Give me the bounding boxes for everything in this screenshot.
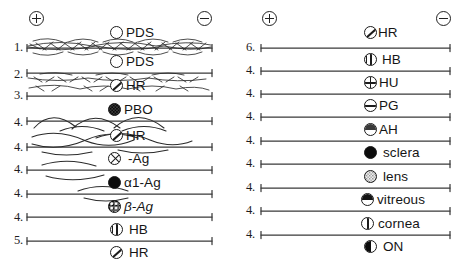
row-number: 4. — [246, 64, 255, 77]
marker-left-half-filled-circle-icon — [364, 240, 377, 253]
legend-label: PDS — [126, 26, 154, 40]
marker-solid-black-circle-icon — [108, 176, 121, 189]
row-number: 6. — [246, 41, 255, 54]
legend-entry: PDS — [110, 26, 154, 40]
legend-label: ON — [383, 240, 403, 254]
marker-vertical-bar-circle-icon — [364, 53, 377, 66]
legend-label: AH — [379, 123, 398, 137]
row-number: 4. — [246, 87, 255, 100]
marker-top-half-filled-circle-icon — [361, 193, 374, 206]
marker-crosshatched-circle-icon — [108, 152, 121, 165]
legend-label: cornea — [378, 217, 420, 231]
legend-entry: vitreous — [361, 193, 425, 207]
minus-horizontal-stroke — [439, 18, 448, 19]
legend-label: PDS — [126, 55, 154, 69]
legend-label: HR — [129, 246, 149, 260]
marker-slashed-circle-icon — [110, 129, 123, 142]
cathode-minus-icon — [436, 11, 451, 26]
row-number: 4. — [246, 157, 255, 170]
legend-label: α1-Ag — [124, 176, 161, 190]
legend-label: HB — [382, 53, 401, 67]
row-number: 4. — [246, 228, 255, 241]
marker-stippled-light-circle-icon — [364, 170, 377, 183]
row-number: 4. — [246, 204, 255, 217]
plus-vertical-stroke — [36, 14, 37, 23]
row-number: 4. — [14, 187, 23, 200]
row-number: 1. — [14, 41, 23, 54]
legend-entry: α1-Ag — [108, 176, 161, 190]
legend-entry: PBO — [108, 103, 153, 117]
row-number: 4. — [246, 181, 255, 194]
legend-label: sclera — [383, 146, 420, 160]
legend-label: β-Ag — [124, 200, 153, 214]
legend-label: vitreous — [377, 193, 425, 207]
legend-entry: PG — [364, 99, 399, 113]
legend-label: -Ag — [128, 152, 149, 166]
legend-label: HR — [126, 79, 146, 93]
row-number: 3. — [14, 89, 23, 102]
row-number: 4. — [14, 211, 23, 224]
marker-open-circle-icon — [110, 26, 123, 39]
legend-entry: HB — [364, 53, 401, 67]
legend-label: HR — [378, 26, 398, 40]
minus-horizontal-stroke — [200, 18, 209, 19]
marker-mottled-circle-icon — [108, 200, 121, 213]
legend-label: PG — [379, 99, 399, 113]
legend-entry: HB — [110, 223, 148, 237]
legend-label: HU — [379, 76, 399, 90]
row-number: 4. — [14, 116, 23, 129]
panel-left: 1. 2. 3. 4. 4. 4. 4. 4. 5. — [0, 0, 238, 267]
marker-vertical-bar-circle-icon — [110, 223, 123, 236]
marker-stippled-dark-circle-icon — [108, 103, 121, 116]
legend-entry: HU — [364, 76, 399, 90]
plus-vertical-stroke — [269, 14, 270, 23]
marker-horizontal-bar-circle-icon — [364, 99, 377, 112]
legend-entry: HR — [110, 246, 149, 260]
legend-entry: β-Ag — [108, 200, 153, 214]
anode-plus-icon — [29, 11, 44, 26]
right-panel-traces — [238, 0, 475, 267]
legend-label: HB — [129, 223, 148, 237]
anode-plus-icon — [262, 11, 277, 26]
legend-label: HR — [126, 129, 146, 143]
legend-entry: lens — [364, 170, 408, 184]
legend-entry: ON — [364, 240, 403, 254]
marker-top-half-filled-circle-icon — [364, 123, 377, 136]
legend-label: PBO — [124, 103, 153, 117]
legend-label: lens — [383, 170, 408, 184]
row-number: 4. — [14, 141, 23, 154]
legend-entry: sclera — [364, 146, 420, 160]
immunoelectrophoresis-figure: 1. 2. 3. 4. 4. 4. 4. 4. 5. — [0, 0, 475, 267]
legend-entry: HR — [110, 129, 146, 143]
cathode-minus-icon — [197, 11, 212, 26]
row-number: 4. — [14, 163, 23, 176]
legend-entry: cornea — [361, 217, 420, 231]
marker-solid-black-circle-icon — [364, 146, 377, 159]
marker-open-circle-icon — [110, 55, 123, 68]
row-number: 4. — [246, 110, 255, 123]
legend-entry: PDS — [110, 55, 154, 69]
marker-slashed-circle-icon — [364, 26, 377, 39]
marker-split-circle-icon — [361, 217, 374, 230]
legend-entry: -Ag — [108, 152, 149, 166]
row-number: 4. — [246, 134, 255, 147]
legend-entry: HR — [110, 79, 146, 93]
row-number: 5. — [14, 234, 23, 247]
legend-entry: AH — [364, 123, 398, 137]
legend-entry: HR — [364, 26, 398, 40]
marker-gridded-circle-icon — [364, 76, 377, 89]
marker-slashed-circle-icon — [110, 246, 123, 259]
marker-slashed-circle-icon — [110, 79, 123, 92]
panel-right: 6. 4. 4. 4. 4. 4. 4. 4. 4. HR — [238, 0, 475, 267]
row-number: 2. — [14, 68, 23, 81]
